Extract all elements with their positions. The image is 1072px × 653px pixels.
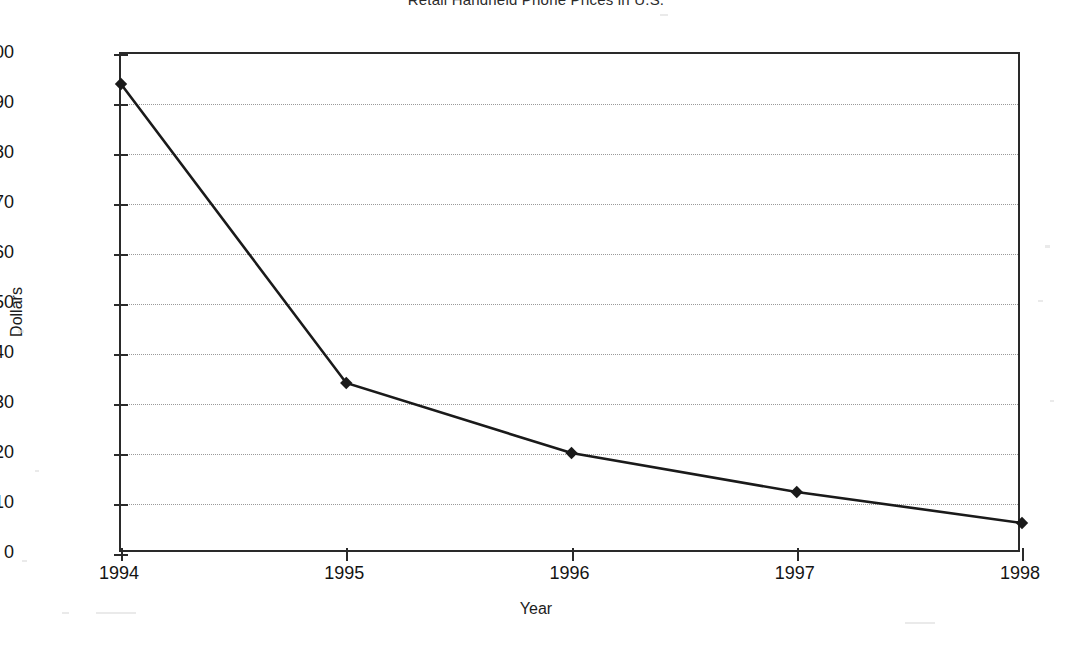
x-tick-label: 1997 [735, 564, 855, 582]
x-tick-mark [1022, 548, 1024, 561]
chart-title: Retail Handheld Phone Prices in U.S. [0, 0, 1072, 8]
scan-speck [905, 622, 935, 624]
y-tick-label: 30 [0, 393, 14, 411]
y-tick-label: 60 [0, 243, 14, 261]
x-tick-label: 1995 [284, 564, 404, 582]
scan-speck [1050, 400, 1054, 402]
y-tick-label: 50 [0, 293, 14, 311]
y-tick-label: 80 [0, 143, 14, 161]
data-point-marker [791, 486, 803, 498]
scan-speck [62, 612, 69, 614]
x-tick-label: 1998 [960, 564, 1072, 582]
chart-canvas: Retail Handheld Phone Prices in U.S. Dol… [0, 0, 1072, 653]
y-tick-label: 0 [0, 543, 14, 561]
scan-speck [35, 470, 39, 472]
scan-speck [22, 560, 27, 562]
x-tick-label: 1994 [59, 564, 179, 582]
plot-area [119, 52, 1020, 552]
data-point-marker [1016, 517, 1028, 529]
data-point-marker [565, 447, 577, 459]
x-axis-title: Year [0, 600, 1072, 618]
scan-speck [1038, 300, 1043, 302]
x-tick-label: 1996 [510, 564, 630, 582]
y-tick-label: 100 [0, 43, 14, 61]
series-markers [115, 78, 1028, 529]
y-tick-label: 40 [0, 343, 14, 361]
data-series-line [121, 54, 1022, 554]
y-tick-label: 20 [0, 443, 14, 461]
y-tick-label: 90 [0, 93, 14, 111]
y-tick-label: 10 [0, 493, 14, 511]
scan-speck [96, 612, 136, 614]
scan-speck [1045, 245, 1050, 248]
y-tick-label: 70 [0, 193, 14, 211]
scan-speck [660, 14, 668, 16]
scan-speck [18, 330, 24, 333]
